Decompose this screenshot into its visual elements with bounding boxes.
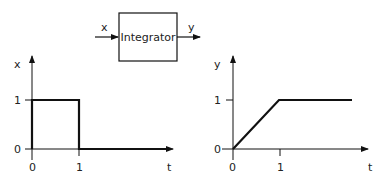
- input-label: x: [101, 21, 108, 34]
- right-xlabel: t: [368, 161, 373, 174]
- integrator-block: x Integrator y: [95, 13, 200, 61]
- right-ytick-0: 0: [214, 143, 221, 156]
- left-xtick-1: 1: [76, 161, 83, 174]
- output-plot: y t 1 0 0 1: [214, 56, 373, 174]
- right-xtick-0: 0: [229, 161, 236, 174]
- right-ytick-1: 1: [214, 94, 221, 107]
- ramp-signal: [233, 100, 352, 149]
- input-plot: x t 1 0 0 1: [14, 56, 173, 174]
- left-xtick-0: 0: [29, 161, 36, 174]
- integrator-label: Integrator: [120, 31, 176, 44]
- right-ylabel: y: [214, 58, 221, 71]
- output-label: y: [188, 21, 195, 34]
- left-xlabel: t: [167, 161, 172, 174]
- left-ytick-1: 1: [14, 94, 21, 107]
- right-xtick-1: 1: [277, 161, 284, 174]
- integrator-diagram: x Integrator y x t 1 0 0 1 y t 1 0 0 1: [0, 0, 388, 183]
- pulse-signal: [32, 100, 170, 149]
- left-ylabel: x: [14, 58, 21, 71]
- left-ytick-0: 0: [14, 143, 21, 156]
